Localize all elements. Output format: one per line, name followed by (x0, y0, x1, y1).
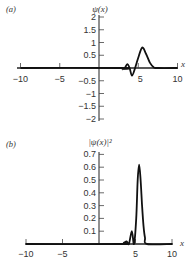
y-tick-label: −1 (86, 89, 96, 99)
x-tick-label: −10 (18, 249, 33, 259)
x-tick-label: −10 (13, 74, 28, 84)
y-tick-label: 0.2 (83, 213, 96, 223)
x-tick-label: 10 (167, 249, 177, 259)
y-tick-label: 0.5 (83, 175, 96, 185)
x-tick-label: 5 (133, 249, 138, 259)
y-tick-label: 2 (91, 12, 96, 22)
y-tick-label: 1 (91, 38, 96, 48)
y-tick-label: 0.4 (83, 188, 96, 198)
x-tick-label: −5 (55, 74, 65, 84)
y-tick-label: 0.3 (83, 201, 96, 211)
y-tick-label: −0.5 (78, 76, 96, 86)
x-tick-label: 10 (172, 74, 182, 84)
panel-label: (b) (6, 139, 16, 149)
y-tick-label: 1.5 (83, 25, 96, 35)
y-axis-title: |ψ(x)|² (88, 137, 112, 147)
y-tick-label: −2 (86, 114, 96, 124)
panel-a: (a)ψ(x)x−10−551021.510.5−0.5−1−1.5−2 (6, 4, 185, 124)
y-tick-label: 0.6 (83, 162, 96, 172)
x-axis-title: x (180, 59, 185, 69)
y-tick-label: 0.1 (83, 226, 96, 236)
panel-label: (a) (6, 4, 16, 14)
figure: (a)ψ(x)x−10−551021.510.5−0.5−1−1.5−2 (b)… (0, 0, 194, 264)
panel-b: (b)|ψ(x)|²x−10−55100.70.60.50.40.30.20.1 (6, 137, 184, 259)
x-tick-label: 5 (138, 74, 143, 84)
y-tick-label: 0.5 (83, 50, 96, 60)
y-tick-label: −1.5 (78, 101, 96, 111)
x-tick-label: −5 (57, 249, 67, 259)
y-tick-label: 0.7 (83, 149, 96, 159)
x-axis-title: x (179, 238, 184, 248)
